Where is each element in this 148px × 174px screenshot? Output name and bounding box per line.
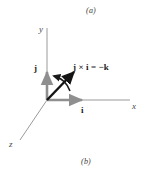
- z-axis-label: z: [9, 139, 13, 149]
- unit-vector-i-label: i: [81, 105, 84, 115]
- y-axis-label: y: [39, 24, 43, 34]
- z-axis-line: [20, 100, 47, 140]
- vector-diagram: [0, 0, 148, 174]
- panel-label-a: (a): [0, 6, 148, 15]
- cross-product-arrow: [47, 72, 74, 100]
- cross-product-equation: j × i = −k: [73, 62, 109, 72]
- panel-label-b: (b): [0, 157, 148, 166]
- unit-vector-j-label: j: [34, 63, 37, 73]
- x-axis-label: x: [132, 101, 136, 111]
- figure-panel: (a) (b) y x z j i j × i = −k: [0, 0, 148, 174]
